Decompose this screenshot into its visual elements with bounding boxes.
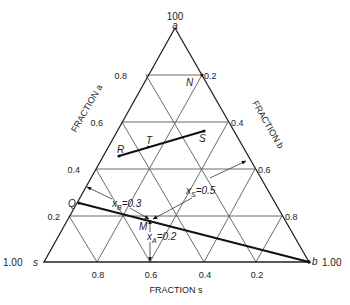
xs-arrow-to-edge xyxy=(210,161,246,178)
right-tick-0-8: 0.8 xyxy=(285,212,298,222)
bottom-tick-0-6: 0.6 xyxy=(145,270,158,280)
bottom-left-label: s xyxy=(33,257,38,268)
point-r-label: R xyxy=(117,144,124,155)
left-tick-0-4: 0.4 xyxy=(67,165,80,175)
point-t-label: T xyxy=(146,135,153,146)
bottom-right-label: b xyxy=(312,256,318,267)
point-s-label: S xyxy=(199,133,206,144)
bottom-right-value: 1.00 xyxy=(322,257,342,268)
bottom-tick-0-4: 0.4 xyxy=(199,270,212,280)
left-tick-0-6: 0.6 xyxy=(90,118,103,128)
point-b-marker xyxy=(307,260,311,264)
point-n-label: N xyxy=(186,77,194,88)
right-tick-0-6: 0.6 xyxy=(258,165,271,175)
point-q-marker xyxy=(77,201,80,204)
right-axis-title: FRACTION b xyxy=(250,99,285,150)
right-tick-0-2: 0.2 xyxy=(204,71,217,81)
xs-annotation: xS=0.5 xyxy=(185,185,216,198)
point-t-marker xyxy=(147,146,149,148)
bottom-tick-0-8: 0.8 xyxy=(92,270,105,280)
xb-arrow-to-edge xyxy=(87,187,112,199)
bottom-left-value: 1.00 xyxy=(3,257,23,268)
ternary-diagram: 100 a 1.00 s b 1.00 0.8 0.6 0.4 0.2 0.2 … xyxy=(0,0,350,305)
left-tick-0-2: 0.2 xyxy=(47,212,60,222)
left-tick-0-8: 0.8 xyxy=(114,71,127,81)
triangle-outline xyxy=(44,28,309,262)
bottom-tick-0-2: 0.2 xyxy=(251,270,264,280)
apex-label: a xyxy=(172,20,178,31)
bottom-axis-title: FRACTION s xyxy=(150,285,203,295)
point-q-label: Q xyxy=(68,198,76,209)
right-tick-0-4: 0.4 xyxy=(231,118,244,128)
point-n-marker xyxy=(200,73,203,76)
